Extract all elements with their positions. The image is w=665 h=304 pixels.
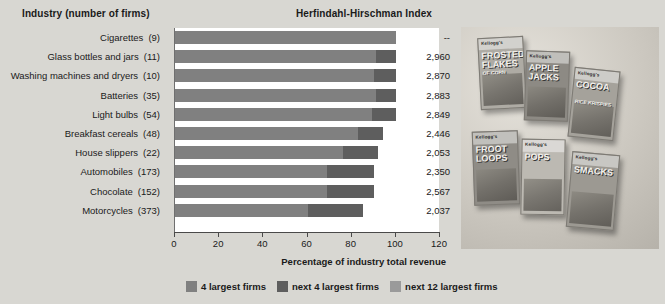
cereal-box: Kellogg's POPS — [520, 139, 565, 216]
axis-tick-label: 20 — [213, 238, 224, 249]
axis-tick-label: 60 — [301, 238, 312, 249]
legend-item[interactable]: next 4 largest firms — [277, 281, 379, 292]
hhi-value: 2,053 — [400, 143, 452, 162]
stacked-bar[interactable] — [175, 89, 396, 102]
hhi-value: 2,870 — [400, 66, 452, 85]
industry-label-row: Breakfast cereals(48) — [0, 124, 168, 143]
industry-label-row: Batteries(35) — [0, 86, 168, 105]
chart-figure: Industry (number of firms) Herfindahl-Hi… — [0, 0, 665, 304]
x-axis: 020406080100120 — [174, 232, 439, 233]
bar-segment-next4 — [372, 108, 396, 121]
stacked-bar[interactable] — [175, 146, 378, 159]
bar-segment-next4 — [327, 185, 373, 198]
firm-count: (373) — [138, 205, 160, 216]
bar-segment-next4 — [308, 204, 363, 217]
x-axis-title: Percentage of industry total revenue — [174, 256, 446, 267]
cereal-box: Kellogg's APPLE JACKS — [524, 50, 570, 121]
axis-tick — [439, 232, 440, 237]
axis-tick-label: 0 — [171, 238, 176, 249]
axis-tick-label: 80 — [345, 238, 356, 249]
industry-label-row: Automobiles(173) — [0, 162, 168, 181]
bar-segment-top4 — [175, 50, 376, 63]
industry-label-column: Cigarettes(9)Glass bottles and jars(11)W… — [0, 28, 168, 220]
legend-item[interactable]: next 12 largest firms — [390, 281, 497, 292]
box-title: SMACKS — [574, 166, 616, 179]
bar-segment-top4 — [175, 69, 374, 82]
column-header-hhi: Herfindahl-Hirschman Index — [296, 8, 432, 19]
firm-count: (10) — [143, 70, 160, 81]
bar-segment-next4 — [376, 89, 396, 102]
bar-segment-next4 — [343, 146, 378, 159]
stacked-bar[interactable] — [175, 50, 396, 63]
hhi-value-column: --2,9602,8702,8832,8492,4462,0532,3502,5… — [400, 28, 452, 220]
box-artwork — [571, 103, 614, 137]
hhi-value: 2,567 — [400, 182, 452, 201]
legend-item[interactable]: 4 largest firms — [186, 281, 266, 292]
legend-label: 4 largest firms — [201, 281, 266, 292]
axis-tick — [351, 232, 352, 237]
legend-swatch — [277, 281, 288, 292]
hhi-value: 2,350 — [400, 162, 452, 181]
industry-label-row: House slippers(22) — [0, 143, 168, 162]
box-brand: Kellogg's — [475, 134, 497, 140]
industry-name: Cigarettes — [100, 32, 143, 43]
stacked-bar[interactable] — [175, 204, 363, 217]
bar-segment-next4 — [358, 127, 382, 140]
bar-segment-top4 — [175, 108, 372, 121]
firm-count: (152) — [138, 186, 160, 197]
industry-name: Batteries — [101, 90, 139, 101]
box-title: FROSTED FLAKES — [481, 50, 522, 70]
industry-name: Washing machines and dryers — [11, 70, 138, 81]
bar-segment-top4 — [175, 165, 327, 178]
legend-swatch — [186, 281, 197, 292]
legend-label: next 12 largest firms — [405, 281, 497, 292]
industry-name: Glass bottles and jars — [47, 51, 138, 62]
industry-label-row: Washing machines and dryers(10) — [0, 66, 168, 85]
industry-name: House slippers — [75, 147, 138, 158]
box-artwork — [569, 191, 614, 227]
box-artwork — [482, 73, 524, 106]
stacked-bar[interactable] — [175, 31, 396, 44]
box-title: FROOT LOOPS — [475, 144, 515, 164]
firm-count: (173) — [138, 166, 160, 177]
industry-name: Light bulbs — [92, 109, 138, 120]
axis-tick-label: 100 — [387, 238, 403, 249]
industry-label-row: Light bulbs(54) — [0, 105, 168, 124]
axis-tick — [307, 232, 308, 237]
industry-name: Automobiles — [81, 166, 133, 177]
stacked-bar[interactable] — [175, 127, 383, 140]
hhi-value: 2,446 — [400, 124, 452, 143]
stacked-bar[interactable] — [175, 108, 396, 121]
industry-label-row: Glass bottles and jars(11) — [0, 47, 168, 66]
hhi-value: -- — [400, 28, 452, 47]
firm-count: (35) — [143, 90, 160, 101]
column-header-industry: Industry (number of firms) — [22, 8, 150, 19]
hhi-value: 2,849 — [400, 105, 452, 124]
stacked-bar[interactable] — [175, 165, 374, 178]
industry-name: Chocolate — [90, 186, 133, 197]
bar-segment-next4 — [327, 165, 373, 178]
box-subtitle — [525, 172, 562, 173]
cereal-box: Kellogg's SMACKS — [566, 151, 620, 231]
firm-count: (48) — [143, 128, 160, 139]
axis-tick — [262, 232, 263, 237]
firm-count: (11) — [144, 51, 160, 62]
bar-segment-top4 — [175, 146, 343, 159]
stacked-bar[interactable] — [175, 69, 396, 82]
industry-label-row: Motorcycles(373) — [0, 201, 168, 220]
stacked-bar[interactable] — [175, 185, 374, 198]
bar-segment-top4 — [175, 89, 376, 102]
axis-tick-label: 120 — [431, 238, 447, 249]
cereal-boxes-photo: Kellogg's FROSTED FLAKES OF CORN Kellogg… — [461, 27, 659, 249]
legend: 4 largest firmsnext 4 largest firmsnext … — [186, 281, 497, 292]
bar-segment-top4 — [175, 185, 327, 198]
axis-tick-label: 40 — [257, 238, 268, 249]
industry-name: Motorcycles — [82, 205, 133, 216]
firm-count: (9) — [148, 32, 160, 43]
firm-count: (54) — [143, 109, 160, 120]
cereal-box: Kellogg's FROOT LOOPS — [472, 130, 521, 206]
box-brand: Kellogg's — [525, 142, 547, 147]
industry-name: Breakfast cereals — [65, 128, 138, 139]
cereal-box: Kellogg's FROSTED FLAKES OF CORN — [477, 36, 527, 110]
cereal-box: Kellogg's COCOA RICE KRISPIES — [567, 67, 620, 141]
